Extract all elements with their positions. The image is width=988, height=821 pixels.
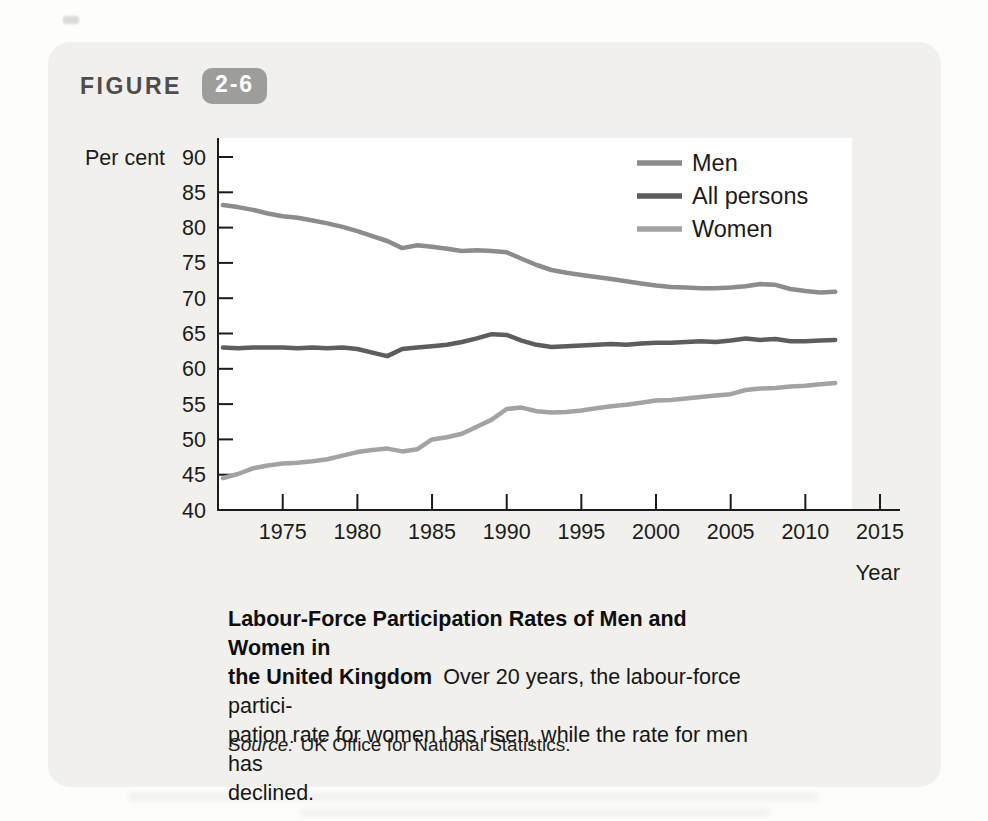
y-tick-label: 80 — [182, 216, 206, 240]
y-tick-label: 50 — [182, 428, 206, 452]
bleed-through-streak — [300, 808, 770, 817]
figure-header: FIGURE 2-6 — [80, 68, 267, 104]
x-tick-label: 2005 — [707, 520, 755, 544]
x-tick-label: 1985 — [408, 520, 456, 544]
y-tick-label: 65 — [182, 322, 206, 346]
x-axis-title: Year — [856, 560, 900, 585]
y-tick-label: 85 — [182, 181, 206, 205]
source-note: Source:UK Office for National Statistics… — [228, 734, 570, 756]
x-tick-label: 1995 — [557, 520, 605, 544]
legend-label-women: Women — [692, 216, 773, 242]
y-tick-label: 55 — [182, 393, 206, 417]
x-tick-label: 1980 — [333, 520, 381, 544]
figure-panel: 4045505560657075808590197519801985199019… — [48, 42, 941, 787]
x-tick-label: 1975 — [259, 520, 307, 544]
caption-line: Labour-Force Participation Rates of Men … — [228, 605, 768, 663]
y-tick-label: 75 — [182, 251, 206, 275]
print-smudge — [63, 16, 79, 24]
figure-label: FIGURE — [80, 73, 182, 100]
x-tick-label: 2000 — [632, 520, 680, 544]
y-tick-label: 40 — [182, 499, 206, 523]
participation-chart: 4045505560657075808590197519801985199019… — [48, 42, 941, 602]
y-tick-label: 45 — [182, 463, 206, 487]
y-tick-label: 70 — [182, 287, 206, 311]
figure-number-badge: 2-6 — [202, 68, 267, 104]
source-text: UK Office for National Statistics. — [300, 734, 570, 755]
figure-caption: Labour-Force Participation Rates of Men … — [228, 605, 768, 808]
caption-line: the United KingdomOver 20 years, the lab… — [228, 663, 768, 721]
y-axis-title: Per cent — [85, 146, 165, 170]
x-tick-label: 1990 — [483, 520, 531, 544]
caption-line: declined. — [228, 779, 768, 808]
x-tick-label: 2015 — [856, 520, 904, 544]
source-label: Source: — [228, 734, 293, 755]
x-tick-label: 2010 — [781, 520, 829, 544]
y-tick-label: 90 — [182, 146, 206, 170]
legend-label-men: Men — [692, 150, 738, 176]
y-tick-label: 60 — [182, 357, 206, 381]
legend-label-all-persons: All persons — [692, 183, 808, 209]
